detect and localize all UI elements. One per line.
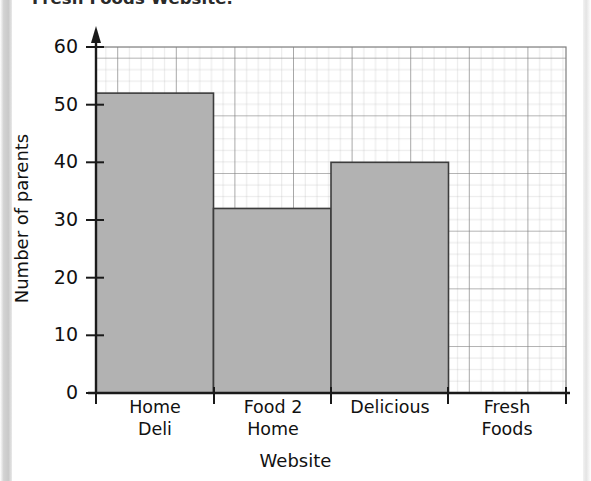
y-tick-40: 40 [34,152,78,171]
x-category-delicious-line1: Delicious [331,396,449,418]
y-tick-60: 60 [34,37,78,56]
x-axis-label: Website [0,450,591,471]
x-category-delicious: Delicious [331,396,449,418]
bar-delicious [331,162,449,393]
x-category-food-2-home-line1: Food 2 [214,396,332,418]
y-tick-30: 30 [34,210,78,229]
x-category-food-2-home-line2: Home [214,418,332,440]
y-axis-tick-labels: 0 10 20 30 40 50 60 [34,0,78,481]
y-tick-10: 10 [34,325,78,344]
x-category-home-deli-line1: Home [96,396,214,418]
y-axis-label: Number of parents [11,124,32,314]
x-category-fresh-foods: Fresh Foods [448,396,566,441]
y-tick-20: 20 [34,268,78,287]
y-tick-50: 50 [34,95,78,114]
bar-chart: 0 10 20 30 40 50 60 Number of parents Ho… [0,0,591,481]
x-category-food-2-home: Food 2 Home [214,396,332,441]
bar-food-2-home [214,208,332,393]
bar-home-deli [96,93,214,393]
x-category-fresh-foods-line2: Foods [448,418,566,440]
y-tick-0: 0 [34,383,78,402]
x-category-home-deli-line2: Deli [96,418,214,440]
x-category-home-deli: Home Deli [96,396,214,441]
x-category-fresh-foods-line1: Fresh [448,396,566,418]
